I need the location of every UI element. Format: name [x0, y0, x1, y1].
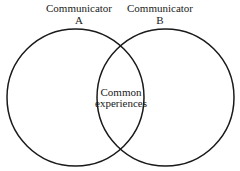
label-communicator-b-title: Communicator [120, 3, 200, 14]
label-communicator-a-title: Communicator [39, 3, 119, 14]
label-common-experiences: Common experiences [86, 87, 156, 109]
label-communicator-a-letter: A [39, 15, 119, 26]
label-communicator-a: Communicator A [39, 3, 119, 26]
label-communicator-b: Communicator B [120, 3, 200, 26]
label-experiences: experiences [86, 98, 156, 109]
label-communicator-b-letter: B [120, 15, 200, 26]
